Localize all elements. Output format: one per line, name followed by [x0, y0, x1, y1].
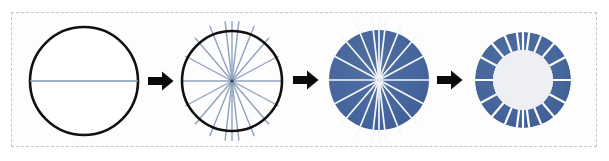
arrow-right-icon-1: leads to: [148, 71, 174, 91]
stage-shaded-sectors: Sectors shaded blue: [327, 0, 431, 161]
stage-circle-with-sectors: Circle divided into 12 equal sectors: [180, 0, 284, 161]
ring-inner-disk: [493, 50, 553, 110]
arrow-right-icon-2: leads to: [293, 70, 319, 90]
stage-annulus-ring: Sectors arranged as a ring: [475, 0, 575, 161]
arrow-right-icon-3: leads to: [437, 70, 463, 90]
center-point: [230, 79, 234, 83]
center-point: [377, 78, 382, 83]
figure-root: Circle with one diameter leads to: [0, 0, 609, 161]
stage-plain-circle: Circle with one diameter: [24, 0, 144, 161]
